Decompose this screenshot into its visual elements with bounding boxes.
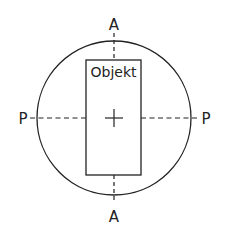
axis-label-left-p: P [18, 110, 27, 128]
orientation-diagram: Objekt A A P P [0, 0, 225, 235]
axis-label-bottom-a: A [109, 208, 120, 226]
axis-label-top-a: A [109, 16, 120, 34]
axis-label-right-p: P [201, 110, 210, 128]
object-label: Objekt [90, 64, 137, 80]
